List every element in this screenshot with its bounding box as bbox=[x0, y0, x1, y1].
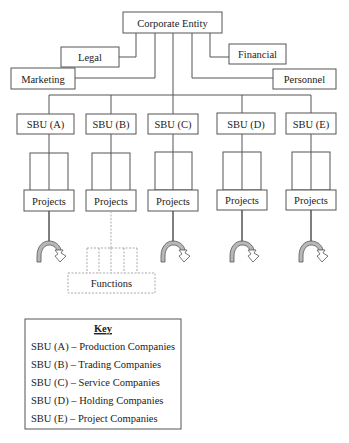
sbu-b-projects-label: Projects bbox=[94, 196, 128, 207]
sbu-d-projects-label: Projects bbox=[225, 195, 259, 206]
key-title: Key bbox=[94, 323, 113, 334]
corporate-entity-label: Corporate Entity bbox=[137, 18, 208, 29]
cycle-arrow-icon bbox=[37, 241, 66, 262]
cycle-arrow-icon bbox=[230, 241, 259, 262]
sbu-e-projects-label: Projects bbox=[294, 195, 328, 206]
sbu-b-column: SBU (B) Projects Functions bbox=[68, 114, 155, 293]
sbu-d-label: SBU (D) bbox=[227, 119, 265, 131]
sbu-a-label: SBU (A) bbox=[27, 119, 65, 131]
cycle-arrow-icon bbox=[161, 241, 190, 262]
sbu-e-column: SBU (E) Projects bbox=[286, 113, 336, 262]
personnel-node: Personnel bbox=[273, 69, 336, 89]
sbu-d-column: SBU (D) Projects bbox=[217, 113, 275, 262]
sbu-c-label: SBU (C) bbox=[154, 119, 192, 131]
marketing-label: Marketing bbox=[21, 74, 65, 85]
key-entry: SBU (A) – Production Companies bbox=[31, 341, 175, 353]
key-entry: SBU (B) – Trading Companies bbox=[31, 359, 161, 371]
key-legend: Key SBU (A) – Production Companies SBU (… bbox=[25, 319, 181, 429]
org-structure-diagram: Corporate Entity Legal Marketing Financi… bbox=[0, 0, 349, 443]
financial-label: Financial bbox=[238, 49, 277, 60]
sbu-b-label: SBU (B) bbox=[92, 119, 130, 131]
sbu-a-column: SBU (A) Projects bbox=[17, 114, 74, 262]
functions-label: Functions bbox=[91, 278, 132, 289]
sbu-c-projects-label: Projects bbox=[156, 196, 190, 207]
key-entry: SBU (E) – Project Companies bbox=[31, 413, 158, 425]
corporate-entity-node: Corporate Entity bbox=[123, 12, 222, 33]
legal-label: Legal bbox=[78, 52, 102, 63]
key-entry: SBU (C) – Service Companies bbox=[31, 377, 160, 389]
sbu-e-label: SBU (E) bbox=[293, 119, 330, 131]
key-entry: SBU (D) – Holding Companies bbox=[31, 395, 163, 407]
sbu-c-column: SBU (C) Projects bbox=[148, 114, 198, 262]
functions-grid bbox=[87, 248, 137, 273]
sbu-a-projects-label: Projects bbox=[32, 196, 66, 207]
financial-node: Financial bbox=[229, 44, 286, 64]
functions-node: Functions bbox=[68, 273, 155, 293]
personnel-label: Personnel bbox=[284, 74, 325, 85]
cycle-arrow-icon bbox=[299, 241, 328, 262]
legal-node: Legal bbox=[61, 47, 119, 67]
marketing-node: Marketing bbox=[11, 68, 75, 89]
